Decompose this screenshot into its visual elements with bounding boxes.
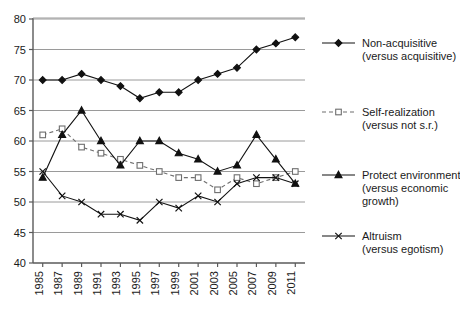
y-tick-label: 55 (14, 166, 26, 178)
data-point-marker (214, 71, 221, 78)
data-point-marker (137, 217, 143, 223)
y-tick-label: 65 (14, 105, 26, 117)
data-point-marker (98, 77, 105, 84)
y-tick-label: 80 (14, 13, 26, 25)
y-tick-label: 45 (14, 227, 26, 239)
chart-legend: Non-acquisitive(versus acquisitive)Self-… (322, 37, 460, 255)
legend-item-altruism[interactable]: Altruism(versus egotism) (322, 230, 443, 255)
x-tick-label: 1999 (169, 271, 181, 295)
data-point-marker (79, 144, 85, 150)
x-tick-label: 1989 (72, 271, 84, 295)
data-point-marker (117, 83, 124, 90)
y-axis-tick-labels: 404550556065707580 (14, 13, 26, 269)
data-point-marker (175, 149, 182, 155)
data-point-marker (195, 175, 201, 181)
x-tick-label: 2011 (285, 271, 297, 295)
data-point-marker (175, 89, 182, 96)
series-non-acquisitive (39, 34, 298, 102)
data-point-marker (215, 187, 221, 193)
data-point-marker (156, 169, 162, 175)
data-point-marker (40, 132, 46, 138)
x-tick-label: 2003 (208, 271, 220, 295)
x-tick-label: 1987 (52, 271, 64, 295)
chart-container: 404550556065707580 198519871989199119931… (0, 0, 460, 313)
data-point-marker (176, 175, 182, 181)
data-point-marker (78, 71, 85, 78)
data-point-marker (254, 181, 260, 187)
x-tick-label: 1985 (33, 271, 45, 295)
data-point-marker (59, 193, 65, 199)
x-axis-tick-labels: 1985198719891991199319951997199920012003… (33, 271, 298, 295)
data-point-marker (98, 150, 104, 156)
series-protect-environment (39, 107, 299, 187)
x-tick-label: 2005 (227, 271, 239, 295)
x-tick-label: 1993 (110, 271, 122, 295)
data-point-marker (156, 89, 163, 96)
data-point-marker (253, 131, 260, 137)
gridlines (33, 19, 305, 233)
y-tick-label: 60 (14, 135, 26, 147)
y-tick-label: 70 (14, 74, 26, 86)
data-point-marker (156, 137, 163, 143)
legend-label: Altruism (362, 230, 402, 242)
x-tick-label: 1997 (149, 271, 161, 295)
legend-marker-icon (336, 109, 342, 115)
legend-label: Protect environment (362, 169, 460, 181)
y-tick-label: 50 (14, 196, 26, 208)
y-tick-label: 40 (14, 257, 26, 269)
x-tick-label: 1991 (91, 271, 103, 295)
legend-item-protect-environment[interactable]: Protect environment(versus economicgrowt… (322, 169, 460, 207)
data-point-marker (137, 163, 143, 169)
x-tick-label: 2001 (188, 271, 200, 295)
series-altruism (40, 168, 299, 223)
legend-sublabel: (versus economic (362, 182, 449, 194)
data-point-marker (292, 169, 298, 175)
x-tick-label: 1995 (130, 271, 142, 295)
data-point-marker (195, 193, 201, 199)
legend-sublabel: (versus not s.r.) (362, 119, 438, 131)
data-point-marker (136, 137, 143, 143)
legend-marker-icon (335, 40, 342, 47)
data-point-marker (234, 175, 240, 181)
data-point-marker (78, 107, 85, 113)
x-tick-label: 2009 (266, 271, 278, 295)
legend-label: Self-realization (362, 106, 435, 118)
data-point-marker (292, 34, 299, 41)
data-point-marker (136, 95, 143, 102)
data-point-marker (234, 181, 240, 187)
plot-series (39, 34, 299, 224)
data-point-marker (176, 205, 182, 211)
data-point-marker (195, 77, 202, 84)
data-point-marker (59, 77, 66, 84)
line-chart: 404550556065707580 198519871989199119931… (0, 0, 460, 313)
legend-sublabel: (versus acquisitive) (362, 50, 456, 62)
legend-item-non-acquisitive[interactable]: Non-acquisitive(versus acquisitive) (322, 37, 456, 62)
axis-lines (29, 18, 305, 267)
y-tick-label: 75 (14, 44, 26, 56)
legend-item-self-realization[interactable]: Self-realization(versus not s.r.) (322, 106, 438, 131)
x-tick-label: 2007 (246, 271, 258, 295)
legend-sublabel: (versus egotism) (362, 243, 443, 255)
data-point-marker (272, 40, 279, 47)
legend-sublabel-line2: growth) (362, 195, 399, 207)
legend-marker-icon (335, 171, 342, 177)
data-point-marker (39, 77, 46, 84)
legend-label: Non-acquisitive (362, 37, 437, 49)
